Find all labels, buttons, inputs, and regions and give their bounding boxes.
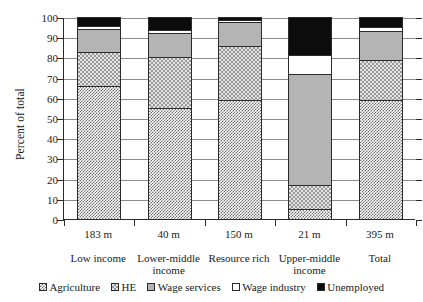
bar-segment-unemployed — [288, 17, 332, 55]
x-axis-tick — [275, 220, 276, 226]
bar-segment-he — [148, 57, 192, 108]
bar-5 — [359, 17, 403, 219]
y-axis-tick-right — [416, 200, 422, 201]
legend-label: HE — [122, 281, 137, 293]
bar-segment-wage-services — [288, 74, 332, 185]
y-axis-tick-label: 100 — [24, 13, 58, 24]
y-axis-tick — [57, 139, 64, 140]
y-axis-tick-label: 10 — [24, 195, 58, 206]
bar-segment-agriculture — [148, 108, 192, 219]
y-axis-tick — [57, 159, 64, 160]
bar-segment-wage-services — [359, 31, 403, 60]
y-axis-tick-right — [416, 18, 422, 19]
y-axis-tick-right — [416, 139, 422, 140]
y-axis-tick-right — [416, 119, 422, 120]
x-axis-tick — [64, 220, 65, 226]
y-axis-tick-right — [416, 159, 422, 160]
bar-4 — [288, 17, 332, 219]
y-axis-tick — [57, 38, 64, 39]
legend-label: Wage services — [158, 281, 221, 293]
bar-3 — [218, 17, 262, 219]
bar-segment-he — [288, 185, 332, 209]
y-axis-tick — [57, 99, 64, 100]
y-axis-tick-label: 20 — [24, 175, 58, 186]
bar-segment-wage-industry — [288, 55, 332, 73]
y-axis-tick-right — [416, 58, 422, 59]
category-name-label: Total — [332, 252, 423, 265]
legend-item-unemployed: Unemployed — [317, 281, 384, 293]
x-axis-tick — [416, 220, 417, 226]
y-axis-tick-label: 60 — [24, 94, 58, 105]
y-axis-tick-label: 80 — [24, 53, 58, 64]
y-axis-tick — [57, 18, 64, 19]
bar-segment-he — [218, 46, 262, 100]
bar-segment-agriculture — [218, 100, 262, 219]
legend-label: Wage industry — [242, 281, 306, 293]
y-axis-tick-label: 40 — [24, 134, 58, 145]
y-axis-tick — [57, 220, 64, 221]
y-axis-tick-label: 90 — [24, 33, 58, 44]
y-axis-tick — [57, 180, 64, 181]
bar-segment-wage-services — [77, 29, 121, 52]
legend-label: Unemployed — [327, 281, 384, 293]
y-axis-tick-label: 50 — [24, 114, 58, 125]
legend-item-wage-services: Wage services — [147, 281, 220, 293]
bar-segment-agriculture — [359, 100, 403, 219]
legend-swatch-icon — [111, 283, 119, 291]
bar-segment-unemployed — [359, 17, 403, 27]
legend-item-wage-industry: Wage industry — [232, 281, 306, 293]
y-axis-tick-label: 70 — [24, 74, 58, 85]
y-axis-tick-label: 0 — [24, 215, 58, 226]
y-axis-tick — [57, 200, 64, 201]
y-axis-tick-label: 30 — [24, 154, 58, 165]
y-axis-tick — [57, 58, 64, 59]
legend-swatch-icon — [317, 283, 325, 291]
stacked-bar-chart: Percent of total 0102030405060708090100 … — [0, 0, 423, 302]
category-size-label: 395 m — [332, 228, 423, 241]
y-axis-tick-right — [416, 38, 422, 39]
bar-segment-he — [359, 60, 403, 99]
plot-area: 0102030405060708090100 — [63, 18, 415, 220]
y-axis-tick-right — [416, 180, 422, 181]
bar-segment-he — [77, 52, 121, 86]
bar-segment-wage-services — [148, 33, 192, 57]
y-axis-tick-right — [416, 79, 422, 80]
legend-item-agriculture: Agriculture — [39, 281, 100, 293]
bar-segment-wage-services — [218, 22, 262, 46]
bar-segment-unemployed — [148, 17, 192, 30]
legend-item-he: HE — [111, 281, 136, 293]
x-axis-tick — [205, 220, 206, 226]
y-axis-tick — [57, 119, 64, 120]
legend-swatch-icon — [39, 283, 47, 291]
x-axis-tick — [346, 220, 347, 226]
chart-legend: AgricultureHEWage servicesWage industryU… — [0, 281, 423, 293]
bar-2 — [148, 17, 192, 219]
bar-segment-unemployed — [77, 17, 121, 26]
legend-swatch-icon — [147, 283, 155, 291]
x-axis-category-label: 395 mTotal — [332, 228, 423, 264]
x-axis-tick — [134, 220, 135, 226]
y-axis-tick-right — [416, 99, 422, 100]
bar-segment-agriculture — [77, 86, 121, 219]
legend-swatch-icon — [232, 283, 240, 291]
y-axis-tick — [57, 79, 64, 80]
legend-label: Agriculture — [49, 281, 100, 293]
bar-segment-agriculture — [288, 209, 332, 219]
bar-1 — [77, 17, 121, 219]
